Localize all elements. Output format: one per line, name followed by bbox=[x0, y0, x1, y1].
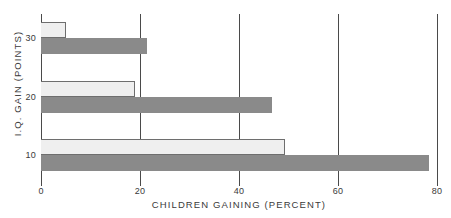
bar-group-30-dark bbox=[41, 38, 147, 54]
bar-group-10-dark bbox=[41, 155, 429, 171]
x-tick-mark-80 bbox=[437, 179, 438, 186]
x-tick-mark-20 bbox=[140, 179, 141, 186]
x-tick-label-20: 20 bbox=[135, 186, 145, 196]
bar-group-10-light bbox=[41, 139, 285, 155]
y-axis-title: I.Q. GAIN (POINTS) bbox=[12, 19, 23, 149]
plot-area bbox=[41, 14, 437, 179]
x-tick-label-40: 40 bbox=[234, 186, 244, 196]
x-tick-label-80: 80 bbox=[432, 186, 442, 196]
x-axis-title: CHILDREN GAINING (PERCENT) bbox=[41, 199, 437, 210]
x-tick-label-0: 0 bbox=[38, 186, 43, 196]
x-tick-mark-0 bbox=[41, 179, 42, 186]
x-tick-label-60: 60 bbox=[333, 186, 343, 196]
y-tick-label-10: 10 bbox=[26, 150, 36, 160]
bar-chart-figure: 0 20 40 60 80 30 20 10 CHILDREN GAINING … bbox=[0, 0, 451, 218]
y-tick-label-20: 20 bbox=[26, 92, 36, 102]
x-tick-mark-40 bbox=[239, 179, 240, 186]
y-tick-label-30: 30 bbox=[26, 33, 36, 43]
bar-group-20-dark bbox=[41, 97, 272, 113]
x-tick-mark-60 bbox=[338, 179, 339, 186]
bar-group-20-light bbox=[41, 81, 135, 97]
bar-group-30-light bbox=[41, 22, 66, 38]
gridline-80 bbox=[437, 14, 438, 179]
